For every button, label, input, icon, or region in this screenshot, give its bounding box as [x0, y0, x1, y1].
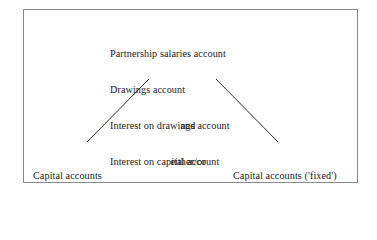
account-line-salaries: Partnership salaries account: [110, 48, 230, 60]
either-or-caption: and either/or: [150, 96, 226, 180]
caption-line-and: and: [150, 120, 226, 132]
left-branch-line-1: Capital accounts: [33, 170, 102, 182]
right-branch-label: Capital accounts ('fixed') and current a…: [233, 146, 337, 194]
account-line-drawings: Drawings account: [110, 84, 230, 96]
right-branch-line-1: Capital accounts ('fixed'): [233, 170, 337, 182]
caption-line-either-or: either/or: [150, 156, 226, 168]
left-branch-label: Capital accounts ('variable'): [33, 146, 102, 194]
